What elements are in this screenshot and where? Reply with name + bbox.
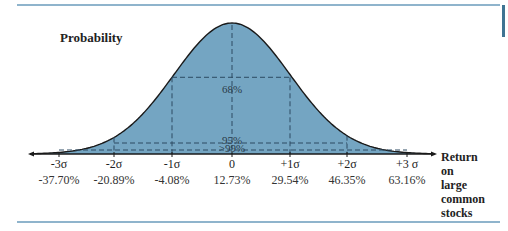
interval-label-68: 68%	[212, 83, 252, 95]
tick-value-label: -37.70%	[29, 173, 89, 188]
tick-value-label: -20.89%	[84, 173, 144, 188]
interval-label-99: >99%	[212, 142, 252, 154]
tick-value-label: 12.73%	[202, 173, 262, 188]
tick-value-label: 46.35%	[317, 173, 377, 188]
accent-bar	[502, 5, 505, 37]
tick-sigma-label: 0	[202, 157, 262, 172]
y-axis-label: Probability	[60, 30, 123, 46]
tick-sigma-label: +1σ	[260, 157, 320, 172]
tick-value-label: -4.08%	[142, 173, 202, 188]
axis-arrow-right-icon	[431, 152, 437, 157]
tick-sigma-label: -3σ	[29, 157, 89, 172]
x-axis-label-line: common	[441, 192, 485, 206]
chart-figure: Probability 68% 95% >99% -3σ-37.70%-2σ-2…	[0, 0, 508, 231]
tick-sigma-label: -1σ	[142, 157, 202, 172]
tick-sigma-label: +3 σ	[377, 157, 437, 172]
tick-sigma-label: +2σ	[317, 157, 377, 172]
tick-sigma-label: -2σ	[84, 157, 144, 172]
tick-value-label: 29.54%	[260, 173, 320, 188]
tick-value-label: 63.16%	[377, 173, 437, 188]
x-axis-label-line: large	[441, 178, 485, 192]
x-axis-label: Return on large common stocks	[441, 150, 485, 220]
x-axis-label-line: stocks	[441, 206, 485, 220]
x-axis-label-line: on	[441, 164, 485, 178]
x-axis-label-line: Return	[441, 150, 485, 164]
axis-arrow-left-icon	[28, 152, 34, 157]
